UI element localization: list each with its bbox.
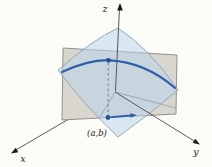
- point-ab: [106, 115, 111, 120]
- diagram-svg: z x y (a,b): [0, 0, 212, 167]
- z-axis-label: z: [101, 3, 108, 14]
- figure-canvas: z x y (a,b): [0, 0, 212, 167]
- y-axis-label: y: [192, 146, 199, 157]
- x-axis-label: x: [20, 153, 26, 164]
- point-ab-label: (a,b): [87, 128, 107, 138]
- point-on-curve: [106, 58, 111, 63]
